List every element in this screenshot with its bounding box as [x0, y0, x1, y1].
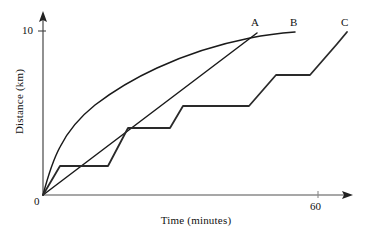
x-tick-label-60: 60 — [310, 201, 321, 212]
series-line-a — [43, 33, 257, 195]
y-axis-title: Distance (km) — [14, 47, 25, 157]
series-label-c: C — [341, 17, 348, 28]
origin-label: 0 — [34, 196, 40, 207]
series-label-b: B — [290, 17, 297, 28]
series-step-c — [43, 32, 347, 195]
y-axis — [38, 11, 47, 195]
x-axis — [43, 191, 353, 199]
distance-time-chart: Distance (km) Time (minutes) 10 0 60 A B… — [0, 0, 368, 243]
x-axis-title: Time (minutes) — [131, 215, 261, 226]
series-label-a: A — [251, 17, 259, 28]
y-tick-label-10: 10 — [22, 25, 33, 36]
series-curve-b — [43, 32, 295, 195]
